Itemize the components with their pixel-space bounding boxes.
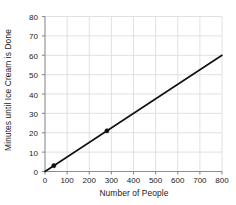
chart-container: Minutes until Ice Cream is Done Number o… — [0, 0, 236, 205]
data-point-marker — [105, 129, 109, 133]
tick-marks — [42, 17, 222, 175]
data-point-marker — [52, 164, 56, 168]
grid-lines — [45, 17, 222, 172]
plot-area — [0, 0, 236, 205]
